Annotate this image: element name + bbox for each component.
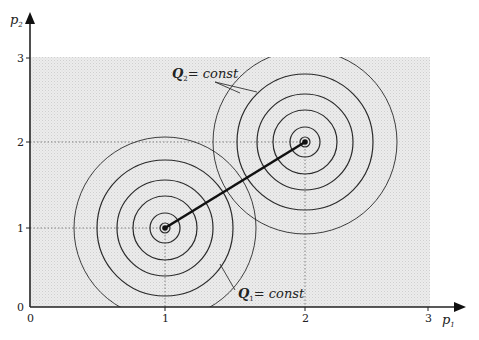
x-axis-label: p1 — [442, 312, 455, 329]
x-axis-arrow-icon — [454, 302, 466, 312]
q1-center-dot — [162, 225, 168, 231]
x-tick-1: 1 — [162, 312, 169, 325]
q2-center-dot — [302, 139, 308, 145]
y-tick-1: 1 — [17, 222, 24, 235]
x-tick-0: 0 — [27, 312, 34, 325]
contour-diagram: 0 1 2 3 0 1 2 3 p1 p2 Q2= const Q1= cons… — [0, 0, 479, 340]
y-tick-3: 3 — [17, 52, 24, 65]
shaded-region — [31, 57, 430, 307]
x-tick-3: 3 — [425, 312, 432, 325]
y-axis-arrow-icon — [25, 12, 35, 24]
y-tick-2: 2 — [17, 136, 24, 149]
y-axis-label: p2 — [10, 12, 23, 29]
x-tick-2: 2 — [302, 312, 309, 325]
q1-annotation: Q1= const — [238, 286, 305, 303]
y-tick-0: 0 — [17, 301, 24, 314]
q2-annotation: Q2= const — [172, 66, 239, 83]
